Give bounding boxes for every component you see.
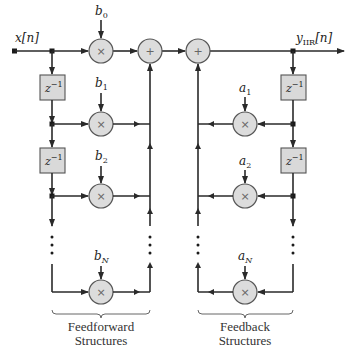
input-label: x[n] — [15, 31, 39, 45]
feedback-caption-line2: Structures — [219, 333, 272, 348]
coef-bN-label: bN — [94, 249, 110, 265]
feedback-caption-line1: Feedback — [220, 319, 270, 334]
multiply-icon: × — [96, 286, 105, 299]
coef-b0-label: b0 — [95, 4, 108, 20]
input-signal: x[n] — [12, 31, 39, 54]
multiply-icon: × — [96, 45, 105, 58]
feedforward-brace — [52, 310, 150, 318]
coef-b2-label: b2 — [95, 149, 108, 165]
add-icon: + — [145, 45, 154, 58]
multiply-icon: × — [240, 118, 249, 131]
add-icon: + — [193, 45, 202, 58]
multiply-icon: × — [96, 190, 105, 203]
feedback-brace — [198, 310, 293, 318]
iir-block-diagram: x[n] yIIR[n] b0 × + + z−1 z−1 b1 × b2 × … — [0, 0, 349, 354]
coef-a1-label: a1 — [239, 81, 251, 97]
coef-a2-label: a2 — [239, 154, 251, 170]
coef-b1-label: b1 — [95, 76, 108, 92]
feedforward-caption-line1: Feedforward — [68, 319, 135, 334]
multiply-icon: × — [240, 286, 249, 299]
coef-aN-label: aN — [238, 249, 253, 265]
output-label: yIIR[n] — [295, 31, 333, 47]
multiply-icon: × — [240, 190, 249, 203]
multiply-icon: × — [96, 118, 105, 131]
feedforward-caption-line2: Structures — [75, 333, 128, 348]
